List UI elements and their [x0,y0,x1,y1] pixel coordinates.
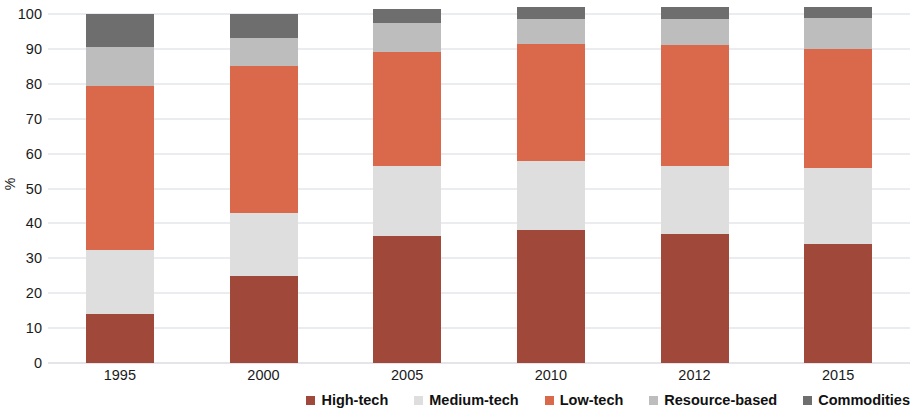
bar-segment-resource-based[interactable] [230,38,298,66]
bar-segment-commodities[interactable] [517,7,585,19]
legend-swatch-icon [414,396,423,405]
y-axis-tick-label: 90 [26,42,42,57]
bar-segment-low-tech[interactable] [230,66,298,213]
bar-segment-commodities[interactable] [86,14,154,47]
legend-swatch-icon [306,396,315,405]
x-axis-tick-label: 2015 [766,367,910,383]
bar-group[interactable] [804,10,872,363]
legend-label: Resource-based [664,392,777,408]
y-axis-tick-labels: 0102030405060708090100 [0,0,48,418]
bar-segment-medium-tech[interactable] [517,161,585,231]
bar-segment-high-tech[interactable] [373,236,441,363]
bar-segment-commodities[interactable] [373,9,441,23]
bar-segment-resource-based[interactable] [661,19,729,45]
bar-segment-resource-based[interactable] [804,18,872,49]
bar-segment-resource-based[interactable] [86,47,154,85]
x-axis-tick-label: 2000 [192,367,336,383]
bar-segment-medium-tech[interactable] [86,250,154,315]
legend-item[interactable]: High-tech [306,392,388,408]
bar-segment-medium-tech[interactable] [230,213,298,276]
x-axis-tick-label: 2012 [623,367,767,383]
y-axis-tick-label: 0 [34,356,42,371]
x-axis-tick-label: 2010 [479,367,623,383]
bar-segment-high-tech[interactable] [86,314,154,363]
bar-group[interactable] [517,10,585,363]
y-axis-tick-label: 70 [26,111,42,126]
y-axis-tick-label: 50 [26,181,42,196]
bar-stack [373,9,441,363]
bar-segment-resource-based[interactable] [517,19,585,43]
bar-segment-low-tech[interactable] [661,45,729,165]
x-axis-tick-label: 1995 [48,367,192,383]
y-axis-tick-label: 60 [26,146,42,161]
legend-label: Commodities [818,392,910,408]
bar-segment-high-tech[interactable] [230,276,298,363]
chart-legend: High-techMedium-techLow-techResource-bas… [0,392,918,408]
bar-stack [86,14,154,363]
bar-group[interactable] [86,10,154,363]
bar-segment-low-tech[interactable] [86,86,154,250]
legend-label: Medium-tech [429,392,518,408]
bar-segment-medium-tech[interactable] [661,166,729,234]
bar-segment-high-tech[interactable] [661,234,729,363]
legend-label: High-tech [321,392,388,408]
bar-segment-resource-based[interactable] [373,23,441,53]
legend-swatch-icon [545,396,554,405]
bars-layer [48,10,910,363]
bar-segment-commodities[interactable] [804,7,872,17]
bar-segment-low-tech[interactable] [373,52,441,165]
bar-segment-commodities[interactable] [661,7,729,19]
legend-item[interactable]: Resource-based [649,392,777,408]
y-axis-tick-label: 40 [26,216,42,231]
bar-group[interactable] [661,10,729,363]
bar-segment-commodities[interactable] [230,14,298,38]
bar-segment-medium-tech[interactable] [804,168,872,245]
bar-segment-low-tech[interactable] [517,44,585,161]
y-axis-tick-label: 30 [26,251,42,266]
bar-stack [804,7,872,363]
y-axis-tick-label: 100 [18,7,42,22]
legend-item[interactable]: Medium-tech [414,392,518,408]
y-axis-tick-label: 20 [26,286,42,301]
y-axis-tick-label: 10 [26,321,42,336]
x-axis-tick-label: 2005 [335,367,479,383]
legend-swatch-icon [803,396,812,405]
bar-segment-medium-tech[interactable] [373,166,441,236]
stacked-bar-chart: % 0102030405060708090100 199520002005201… [0,0,918,418]
bar-stack [517,7,585,363]
bar-group[interactable] [373,10,441,363]
legend-item[interactable]: Low-tech [545,392,624,408]
bar-segment-high-tech[interactable] [517,230,585,363]
bar-segment-high-tech[interactable] [804,244,872,363]
plot-area [48,10,910,363]
legend-label: Low-tech [560,392,624,408]
bar-stack [661,7,729,363]
legend-item[interactable]: Commodities [803,392,910,408]
bar-group[interactable] [230,10,298,363]
bar-segment-low-tech[interactable] [804,49,872,168]
y-axis-tick-label: 80 [26,77,42,92]
legend-swatch-icon [649,396,658,405]
bar-stack [230,14,298,363]
